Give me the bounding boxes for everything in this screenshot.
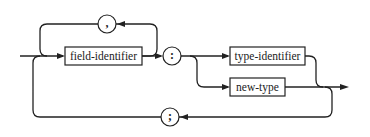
arrow-into-new-type: [222, 84, 230, 90]
semicolon-symbol: ;: [161, 108, 179, 126]
type-identifier-exit-line: [305, 56, 323, 87]
new-type-label: new-type: [230, 78, 285, 96]
syntax-diagram: [0, 0, 370, 137]
arrow-into-comma: [117, 21, 125, 27]
exit-arrow: [340, 84, 349, 90]
field-identifier-label: field-identifier: [65, 47, 142, 65]
arrow-into-colon: [155, 53, 163, 59]
arrow-into-field-identifier: [57, 53, 65, 59]
arrow-into-semicolon: [180, 114, 188, 120]
colon-to-new-type-line: [190, 56, 228, 87]
arrow-into-type-identifier: [222, 53, 230, 59]
colon-symbol: :: [163, 47, 181, 65]
type-identifier-label: type-identifier: [230, 47, 305, 65]
comma-symbol: ,: [98, 15, 116, 33]
